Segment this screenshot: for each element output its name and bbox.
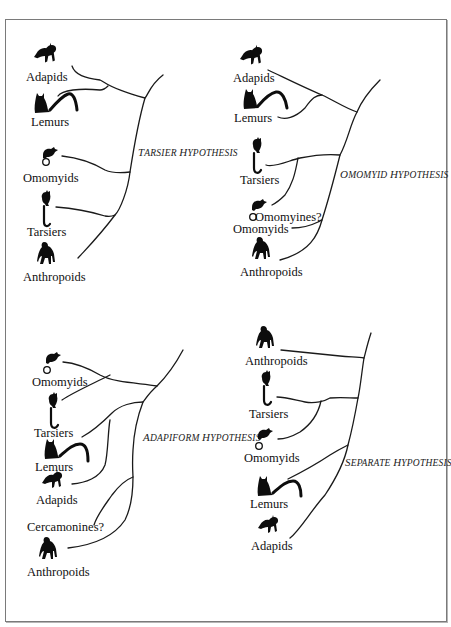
taxon-label: Adapids [251,539,293,553]
taxon-label: Lemurs [31,115,69,129]
taxon-label: Tarsiers [27,225,67,239]
cercamonines-annotation: Cercamonines? [27,520,105,534]
tail-ring [44,367,51,374]
taxon-label: Anthropoids [27,565,90,579]
lemur-silhouette-icon [258,476,273,496]
lemur-silhouette-icon [45,439,60,459]
phylogeny-figure: Adapids Lemurs Omomyids Tarsiers Anthrop… [0,0,451,627]
lemur-silhouette-icon [35,93,50,113]
anthropoid-silhouette-icon [39,537,57,559]
tarsier-tail [254,153,261,173]
tarsier-tail [264,386,271,405]
adapid-silhouette-icon [258,515,278,533]
taxon-label: Omomyids [23,171,79,185]
taxon-label: Omomyids [233,222,289,236]
taxon-label: Lemurs [250,497,288,511]
hypothesis-title: ADAPIFORM HYPOTHESIS [142,431,261,443]
tarsier-silhouette-icon [253,137,262,153]
panel-adapiform-hypothesis: Omomyids Tarsiers Lemurs Adapids Cercamo… [27,350,261,579]
omomyid-silhouette-icon [43,147,58,159]
taxon-label: Adapids [233,71,275,85]
taxon-label: Adapids [36,493,78,507]
hypothesis-title: OMOMYID HYPOTHESIS [340,168,449,180]
taxon-label: Omomyids [244,451,300,465]
adapid-silhouette-icon [34,43,56,63]
omomyid-silhouette-icon [46,352,61,364]
tarsier-tail [44,206,50,226]
taxon-label: Lemurs [234,111,272,125]
lemur-tail [258,92,287,108]
lemur-tail [60,444,88,461]
panel-omomyid-hypothesis: Adapids Lemurs Tarsiers Omomyines? Omomy… [233,45,449,279]
taxon-label: Tarsiers [249,407,289,421]
lemur-tail [50,94,77,110]
lemur-tail [273,481,301,496]
taxon-label: Adapids [26,70,68,84]
taxon-label: Anthropoids [23,270,86,284]
tarsier-silhouette-icon [42,190,51,206]
taxon-label: Omomyids [32,375,88,389]
omomyid-silhouette-icon [258,428,273,440]
adapid-silhouette-icon [240,45,262,65]
panel-separate-hypothesis: Anthropoids Tarsiers Omomyids Lemurs Ada… [244,326,451,553]
panel-tarsier-hypothesis: Adapids Lemurs Omomyids Tarsiers Anthrop… [23,43,238,284]
anthropoid-silhouette-icon [37,242,55,264]
anthropoid-silhouette-icon [252,237,270,259]
hypothesis-title: SEPARATE HYPOTHESIS [345,456,451,468]
anthropoid-silhouette-icon [256,326,274,348]
taxon-label: Tarsiers [34,426,74,440]
taxon-label: Anthropoids [240,265,303,279]
taxon-label: Lemurs [35,460,73,474]
tarsier-silhouette-icon [49,392,58,408]
hypothesis-title: TARSIER HYPOTHESIS [138,146,238,158]
taxon-label: Anthropoids [245,354,308,368]
tail-ring [43,159,50,166]
tail-ring [256,443,263,450]
tarsier-silhouette-icon [262,370,271,386]
tarsier-tail [51,408,58,428]
taxon-label: Tarsiers [240,173,280,187]
